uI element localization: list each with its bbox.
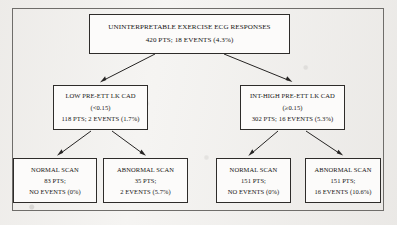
node-int-high-normal-scan[interactable]: NORMAL SCAN 151 PTS; NO EVENTS (0%) [216, 158, 291, 203]
node-int-high-normal-events: NO EVENTS (0%) [217, 188, 290, 195]
node-int-high-abnormal-patients: 151 PTS; [306, 177, 380, 184]
node-low-normal-patients: 83 PTS; [14, 177, 96, 184]
node-root-title: UNINTERPRETABLE EXERCISE ECG RESPONSES [90, 24, 289, 32]
node-int-high-abnormal-events: 16 EVENTS (10.6%) [306, 188, 380, 195]
node-int-high-abnormal-title: ABNORMAL SCAN [306, 166, 380, 173]
node-low-abnormal-scan[interactable]: ABNORMAL SCAN 35 PTS; 2 EVENTS (5.7%) [103, 158, 188, 203]
flowchart-figure: UNINTERPRETABLE EXERCISE ECG RESPONSES 4… [0, 0, 397, 225]
node-int-high-normal-title: NORMAL SCAN [217, 166, 290, 173]
node-low-threshold: (<0.15) [54, 104, 147, 111]
node-low-title: LOW PRE-ETT LK CAD [54, 92, 147, 99]
node-int-high-threshold: (≥0.15) [241, 104, 344, 111]
node-low-pre-ett-lk-cad[interactable]: LOW PRE-ETT LK CAD (<0.15) 118 PTS; 2 EV… [53, 85, 148, 130]
node-int-high-abnormal-scan[interactable]: ABNORMAL SCAN 151 PTS; 16 EVENTS (10.6%) [305, 158, 381, 203]
node-root-stats: 420 PTS; 18 EVENTS (4.3%) [90, 37, 289, 45]
node-low-abnormal-events: 2 EVENTS (5.7%) [104, 188, 187, 195]
node-uninterpretable-exercise-ecg-responses[interactable]: UNINTERPRETABLE EXERCISE ECG RESPONSES 4… [89, 14, 290, 54]
node-low-stats: 118 PTS; 2 EVENTS (1.7%) [54, 115, 147, 122]
node-low-normal-events: NO EVENTS (0%) [14, 188, 96, 195]
node-low-abnormal-title: ABNORMAL SCAN [104, 166, 187, 173]
node-int-high-normal-patients: 151 PTS; [217, 177, 290, 184]
node-low-normal-title: NORMAL SCAN [14, 166, 96, 173]
node-int-high-stats: 302 PTS; 16 EVENTS (5.3%) [241, 115, 344, 122]
node-int-high-title: INT-HIGH PRE-ETT LK CAD [241, 92, 344, 99]
node-low-abnormal-patients: 35 PTS; [104, 177, 187, 184]
node-low-normal-scan[interactable]: NORMAL SCAN 83 PTS; NO EVENTS (0%) [13, 158, 97, 203]
node-int-high-pre-ett-lk-cad[interactable]: INT-HIGH PRE-ETT LK CAD (≥0.15) 302 PTS;… [240, 85, 345, 130]
